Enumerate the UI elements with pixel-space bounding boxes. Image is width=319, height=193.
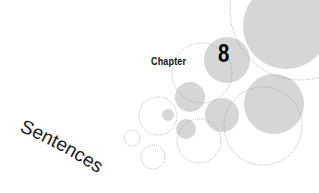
filled-circle xyxy=(162,109,174,121)
filled-circle xyxy=(176,119,196,139)
chapter-label: Chapter xyxy=(151,55,186,67)
dotted-circle xyxy=(124,130,140,146)
dotted-circle xyxy=(141,145,165,169)
filled-circle xyxy=(243,0,319,69)
filled-circles xyxy=(162,0,319,139)
filled-circle xyxy=(205,98,239,132)
decorative-circles xyxy=(0,0,319,193)
filled-circle xyxy=(175,82,205,112)
chapter-number: 8 xyxy=(218,40,229,66)
filled-circle xyxy=(244,74,304,134)
